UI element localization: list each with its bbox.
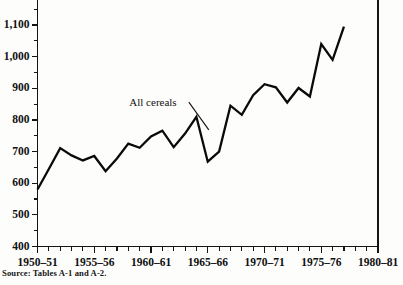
chart-annotations: All cereals bbox=[129, 96, 208, 130]
source-note: Source: Tables A-1 and A-2. bbox=[2, 268, 107, 278]
y-axis-tick-label: 400 bbox=[12, 240, 30, 252]
annotation-label-all-cereals: All cereals bbox=[129, 96, 176, 108]
y-axis-tick-label: 1,100 bbox=[4, 18, 30, 30]
y-axis-tick-label: 700 bbox=[12, 145, 30, 157]
chart-ticks bbox=[32, 9, 378, 253]
line-chart: 4005006007008009001,0001,1001950–511955–… bbox=[0, 0, 403, 285]
y-axis-tick-label: 500 bbox=[12, 208, 30, 220]
y-axis-tick-label: 1,000 bbox=[4, 50, 30, 62]
x-axis-tick-label: 1955–56 bbox=[74, 256, 115, 268]
x-axis-tick-label: 1960–61 bbox=[131, 256, 172, 268]
x-axis-tick-label: 1980–81 bbox=[358, 256, 399, 268]
series-line-all-cereals bbox=[38, 27, 344, 190]
x-axis-tick-label: 1950–51 bbox=[17, 256, 58, 268]
y-axis-tick-label: 800 bbox=[12, 113, 30, 125]
y-axis-tick-label: 900 bbox=[12, 81, 30, 93]
chart-tick-labels: 4005006007008009001,0001,1001950–511955–… bbox=[4, 18, 399, 267]
chart-axes bbox=[38, 0, 379, 247]
chart-series bbox=[38, 27, 344, 190]
x-axis-tick-label: 1975–76 bbox=[301, 256, 342, 268]
chart-figure: 4005006007008009001,0001,1001950–511955–… bbox=[0, 0, 403, 285]
y-axis-tick-label: 600 bbox=[12, 176, 30, 188]
x-axis-tick-label: 1965–66 bbox=[188, 256, 229, 268]
x-axis-tick-label: 1970–71 bbox=[244, 256, 285, 268]
